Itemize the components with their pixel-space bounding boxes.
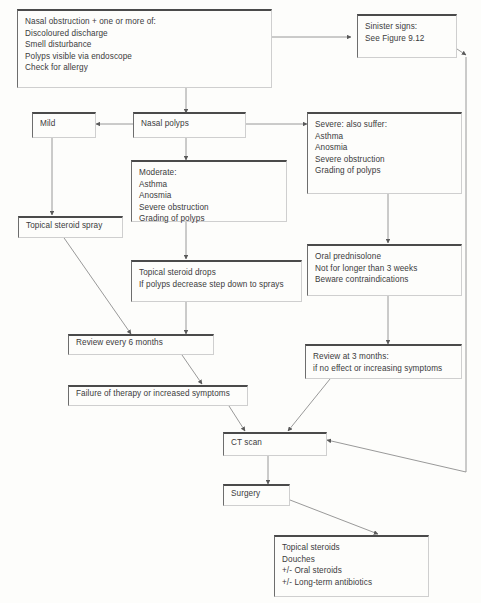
node-review-every-6-months[interactable]: Review every 6 months	[68, 334, 214, 355]
review-3-months-line-2: if no effect or increasing symptoms	[313, 363, 455, 375]
node-severe[interactable]: Severe: also suffer: Asthma Anosmia Seve…	[307, 112, 462, 194]
surgery-label: Surgery	[231, 488, 260, 500]
oral-prednisolone-line-2: Not for longer than 3 weeks	[315, 263, 455, 275]
severe-line-5: Grading of polyps	[315, 165, 455, 177]
nasal-polyps-label: Nasal polyps	[141, 118, 189, 130]
severe-line-3: Anosmia	[315, 142, 455, 154]
presentation-line-3: Smell disturbance	[25, 39, 265, 51]
review-6-months-label: Review every 6 months	[76, 337, 163, 349]
severe-line-2: Asthma	[315, 131, 455, 143]
node-mild[interactable]: Mild	[32, 112, 96, 138]
post-op-line-4: +/- Long-term antibiotics	[282, 577, 422, 589]
topical-spray-label: Topical steroid spray	[26, 220, 102, 232]
post-op-line-3: +/- Oral steroids	[282, 565, 422, 577]
post-op-line-2: Douches	[282, 554, 422, 566]
node-nasal-polyps[interactable]: Nasal polyps	[133, 112, 246, 138]
moderate-line-2: Asthma	[139, 179, 280, 191]
node-oral-prednisolone[interactable]: Oral prednisolone Not for longer than 3 …	[307, 244, 462, 296]
flowchart-canvas: Nasal obstruction + one or more of: Disc…	[0, 0, 481, 603]
presentation-line-2: Discoloured discharge	[25, 28, 265, 40]
presentation-line-1: Nasal obstruction + one or more of:	[25, 16, 265, 28]
topical-drops-line-1: Topical steroid drops	[139, 267, 295, 279]
node-post-op-treatment[interactable]: Topical steroids Douches +/- Oral steroi…	[274, 535, 429, 597]
node-topical-steroid-drops[interactable]: Topical steroid drops If polyps decrease…	[131, 260, 302, 302]
moderate-line-4: Severe obstruction	[139, 202, 280, 214]
oral-prednisolone-line-1: Oral prednisolone	[315, 251, 455, 263]
moderate-line-3: Anosmia	[139, 190, 280, 202]
oral-prednisolone-line-3: Beware contraindications	[315, 274, 455, 286]
moderate-line-1: Moderate:	[139, 167, 280, 179]
sinister-line-1: Sinister signs:	[365, 21, 450, 33]
node-moderate[interactable]: Moderate: Asthma Anosmia Severe obstruct…	[131, 160, 287, 222]
presentation-line-4: Polyps visible via endoscope	[25, 51, 265, 63]
post-op-line-1: Topical steroids	[282, 542, 422, 554]
sinister-line-2: See Figure 9.12	[365, 33, 450, 45]
review-3-months-line-1: Review at 3 months:	[313, 351, 455, 363]
mild-label: Mild	[40, 118, 55, 130]
node-sinister-signs[interactable]: Sinister signs: See Figure 9.12	[357, 14, 457, 58]
node-ct-scan[interactable]: CT scan	[223, 432, 327, 456]
node-review-at-3-months[interactable]: Review at 3 months: if no effect or incr…	[305, 344, 462, 379]
node-surgery[interactable]: Surgery	[223, 484, 290, 506]
severe-line-4: Severe obstruction	[315, 154, 455, 166]
node-presentation[interactable]: Nasal obstruction + one or more of: Disc…	[17, 9, 272, 88]
severe-line-1: Severe: also suffer:	[315, 119, 455, 131]
failure-label: Failure of therapy or increased symptoms	[76, 388, 230, 400]
node-topical-steroid-spray[interactable]: Topical steroid spray	[18, 216, 123, 238]
ct-scan-label: CT scan	[231, 437, 262, 449]
moderate-line-5: Grading of polyps	[139, 213, 280, 225]
node-failure-of-therapy[interactable]: Failure of therapy or increased symptoms	[68, 385, 248, 406]
topical-drops-line-2: If polyps decrease step down to sprays	[139, 279, 295, 291]
presentation-line-5: Check for allergy	[25, 62, 265, 74]
